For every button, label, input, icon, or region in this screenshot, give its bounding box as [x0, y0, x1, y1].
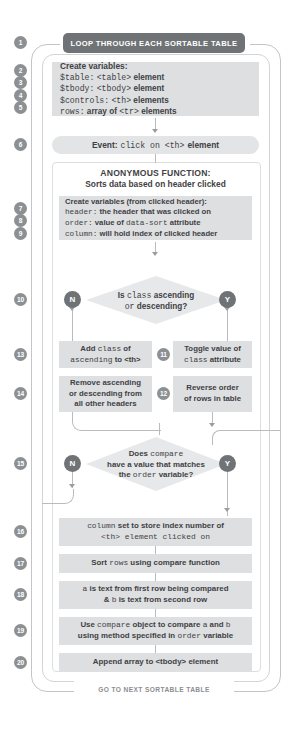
- b13-w2: of: [123, 344, 130, 353]
- vars2-title: Create variables (from clicked header):: [65, 197, 207, 208]
- arrow-d2-no: [69, 484, 75, 488]
- box-a-b-text: a is text from first row being compared …: [59, 581, 252, 609]
- event-code: click on <th>: [121, 141, 185, 150]
- vars2-line-2: order: value of data-sort attribute: [65, 218, 200, 229]
- box-use-compare-object: Use compare object to compare a and b us…: [59, 617, 252, 645]
- b19-w5: variable: [203, 631, 233, 640]
- d1-l2-w2: descending?: [137, 302, 188, 311]
- d1-l2-w1: or: [125, 302, 135, 311]
- b14-line-1: Remove ascending: [70, 378, 141, 389]
- step-badge-1: 1: [14, 36, 27, 49]
- connector-19-20: [155, 645, 156, 653]
- vars2-l2-attr: data-sort: [126, 219, 168, 227]
- step-badge-16: 16: [14, 525, 27, 538]
- b19-code2: order: [177, 631, 201, 640]
- vars1-line-4: rows: array of <tr> elements: [60, 106, 177, 117]
- box-column-store-index: column set to store index number of <th>…: [59, 518, 252, 546]
- connector-d1-no-tail: [72, 329, 73, 341]
- connector-d2-no-to-inner-rail: [42, 489, 74, 504]
- decision2-line-1: Does compare: [129, 449, 184, 460]
- box13-line-2: ascending to <th>: [70, 355, 140, 366]
- decision1-line-1: Is class ascending: [118, 290, 194, 301]
- box13-line-1: Add class of: [80, 344, 130, 355]
- vars1-line-1: $table: <table> element: [60, 72, 164, 83]
- b17-code: rows: [109, 558, 128, 567]
- connector-17-18: [155, 573, 156, 581]
- decision2-line-3: the order variable?: [119, 470, 194, 481]
- box18-line-1: a is text from first row being compared: [83, 584, 229, 595]
- step-badge-13: 13: [14, 348, 27, 361]
- b19-w1: Use: [80, 620, 94, 629]
- step-badge-17: 17: [14, 557, 27, 570]
- box-add-class-ascending: Add class of ascending to <th>: [59, 341, 152, 368]
- connector-d1-no: [72, 308, 73, 329]
- decision2-line-2: have a value that matches: [107, 460, 205, 471]
- b17-w2: using compare function: [130, 558, 219, 567]
- fn-panel-heading: ANONYMOUS FUNCTION: Sorts data based on …: [52, 168, 259, 189]
- box-reverse-row-order: Reverse order of rows in table: [173, 376, 252, 412]
- step-badge-15: 15: [14, 457, 27, 470]
- d1-l1-w1: Is: [118, 291, 125, 300]
- d1-l1-code: class: [127, 291, 152, 300]
- b18-amp: &: [104, 595, 110, 604]
- connector-d1-yes: [227, 308, 228, 329]
- box16-line-2: <th> element clicked on: [101, 532, 210, 543]
- step-badge-18: 18: [14, 588, 27, 601]
- b18-w1: is text from first row being compared: [89, 584, 228, 593]
- decision1-no-circle: N: [64, 291, 81, 308]
- b19-w4: using method specified in: [78, 631, 175, 640]
- b13-code: class: [98, 345, 121, 353]
- vars2-l1-name: header:: [65, 208, 97, 216]
- vars1-l2-tag: <tbody>: [97, 84, 131, 93]
- vars1-l4-tag: <tr>: [119, 107, 139, 116]
- d2-l3-w1: the: [119, 470, 131, 479]
- step-badge-10: 10: [14, 293, 27, 306]
- b19-code1: compare: [97, 620, 130, 629]
- connector-box12-to-outer-rail: [212, 430, 280, 445]
- decision1-text: Is class ascending or descending?: [96, 288, 216, 314]
- vars1-line-3: $controls: <th> elements: [60, 95, 169, 106]
- b13-w1: Add: [80, 344, 95, 353]
- d2-l1-w: Does: [129, 449, 148, 458]
- box-remove-other-headers: Remove ascending or descending from all …: [59, 376, 152, 412]
- vars1-title: Create variables:: [60, 61, 128, 73]
- vars1-l1-tag: <table>: [97, 73, 131, 82]
- b13-l2-code: ascending: [70, 356, 112, 364]
- box11-line-2: class attribute: [184, 355, 241, 366]
- connector-18-19: [155, 609, 156, 617]
- step-badge-6: 6: [14, 138, 27, 151]
- vars1-l2-name: $tbody:: [60, 84, 94, 93]
- box-toggle-class-value: Toggle value of class attribute: [173, 341, 252, 368]
- vars1-l1-word: element: [133, 73, 164, 82]
- vars2-l2-w2: attribute: [170, 218, 201, 227]
- vars1-l4-word1: array of: [87, 107, 117, 116]
- connector-d1-yes-tail: [227, 329, 228, 341]
- box18-line-2: & b is text from second row: [104, 595, 207, 606]
- arrow-box12-down: [209, 423, 215, 427]
- vars1-l3-word: elements: [133, 96, 169, 105]
- b14-line-3: all other headers: [74, 399, 136, 410]
- connector-16-17: [155, 546, 156, 554]
- decision2-text: Does compare have a value that matches t…: [90, 450, 222, 480]
- step-badge-5: 5: [14, 101, 27, 114]
- b16-code: column: [87, 521, 115, 530]
- vars2-line-3: column: will hold index of clicked heade…: [65, 229, 217, 240]
- box19-line-1: Use compare object to compare a and b: [80, 620, 230, 631]
- fn-subtitle: Sorts data based on header clicked: [52, 179, 259, 189]
- b19-w2: object to compare: [132, 620, 200, 629]
- vars1-l4-name: rows:: [60, 107, 85, 116]
- b13-l2-w: to <th>: [115, 355, 141, 364]
- vars2-l3-desc: will hold index of clicked header: [99, 229, 217, 238]
- arrow-vars1-to-event: [152, 129, 158, 133]
- b12-line-2: of rows in table: [184, 394, 241, 405]
- decision2-no-circle: N: [64, 455, 81, 472]
- d2-l1-code: compare: [150, 449, 183, 458]
- b19-w3: and: [210, 620, 224, 629]
- vars2-l2-name: order:: [65, 219, 93, 227]
- decision1-yes-circle: Y: [219, 291, 236, 308]
- fn-title: ANONYMOUS FUNCTION:: [52, 168, 259, 178]
- vars2-l1-desc: the header that was clicked on: [99, 207, 211, 216]
- loop-footer-label: GO TO NEXT SORTABLE TABLE: [74, 681, 234, 697]
- event-label: Event:: [92, 140, 118, 150]
- decision2-yes-circle: Y: [219, 455, 236, 472]
